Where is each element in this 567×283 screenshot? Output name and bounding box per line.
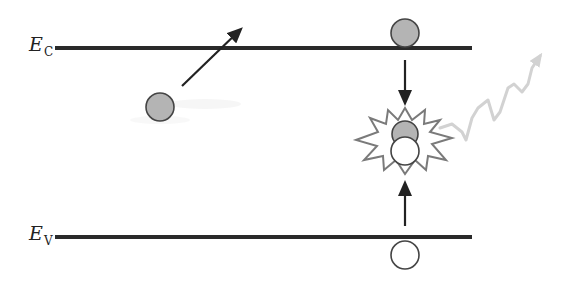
conduction-band-label-sub: C — [44, 45, 53, 59]
valence-band-label-sub: V — [44, 234, 53, 248]
conduction-band-label-main: E — [29, 33, 43, 55]
valence-band-label-main: E — [29, 222, 43, 244]
band-diagram — [0, 0, 567, 283]
excited-electron — [146, 93, 174, 121]
valence-band-hole — [391, 241, 419, 269]
emitted-photon-wave — [440, 56, 540, 140]
conduction-band-electron — [391, 19, 419, 47]
conduction-band-label: EC — [29, 35, 53, 54]
valence-band-label: EV — [29, 224, 53, 243]
recombining-hole — [391, 137, 419, 165]
excitation-arrow — [182, 30, 240, 86]
